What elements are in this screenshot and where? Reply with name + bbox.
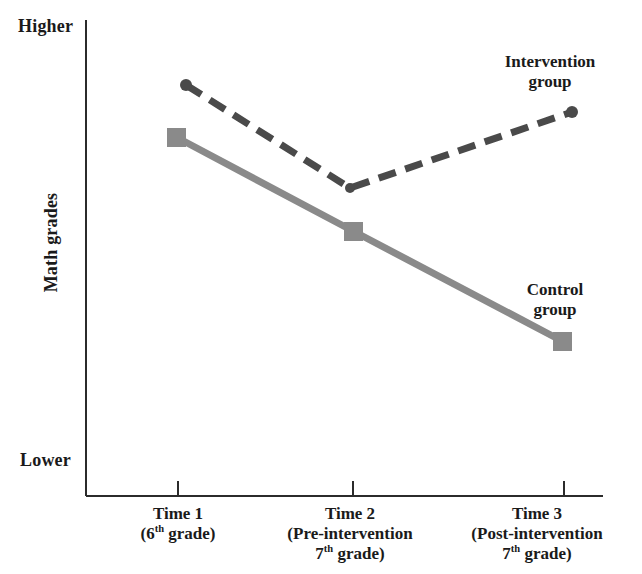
intervention-label-line-2: group	[470, 72, 630, 92]
y-axis-top-label: Higher	[18, 16, 73, 37]
tick-3-line-3: 7th grade)	[437, 544, 637, 564]
control-group-marker-time-3	[553, 332, 572, 351]
tick-1-line-2: (6th grade)	[78, 524, 278, 544]
tick-3-line-1: Time 3	[437, 504, 637, 524]
y-axis-bottom-label: Lower	[20, 450, 71, 471]
control-group-marker-time-1	[167, 128, 186, 147]
tick-2-line-3-post: grade)	[333, 544, 384, 563]
intervention-group-marker-time-3	[566, 106, 578, 118]
intervention-label-line-1: Intervention	[470, 52, 630, 72]
tick-3-line-3-pre: 7	[502, 544, 511, 563]
math-grades-line-chart: Higher Lower Math grades Time 1 (6th gra…	[0, 0, 642, 574]
tick-2-line-3: 7th grade)	[250, 544, 450, 564]
tick-1-line-2-pre: (6	[140, 524, 154, 543]
intervention-group-label: Intervention group	[470, 52, 630, 93]
tick-1-line-2-post: grade)	[164, 524, 215, 543]
tick-3-ordinal-suffix: th	[511, 543, 520, 554]
control-label-line-2: group	[490, 300, 620, 320]
tick-2-line-1: Time 2	[250, 504, 450, 524]
control-label-line-1: Control	[490, 280, 620, 300]
control-group-label: Control group	[490, 280, 620, 321]
tick-2-ordinal-suffix: th	[324, 543, 333, 554]
intervention-group-marker-time-1	[180, 79, 192, 91]
intervention-group-marker-time-2	[345, 183, 355, 193]
tick-2-line-2: (Pre-intervention	[250, 524, 450, 544]
tick-2-line-3-pre: 7	[315, 544, 324, 563]
x-axis-tick-label-time-1: Time 1 (6th grade)	[78, 504, 278, 544]
y-axis-title: Math grades	[41, 188, 62, 298]
tick-1-line-1: Time 1	[78, 504, 278, 524]
x-axis-tick-label-time-2: Time 2 (Pre-intervention 7th grade)	[250, 504, 450, 564]
tick-3-line-3-post: grade)	[520, 544, 571, 563]
control-group-marker-time-2	[344, 222, 363, 241]
tick-1-ordinal-suffix: th	[155, 523, 164, 534]
x-axis-tick-label-time-3: Time 3 (Post-intervention 7th grade)	[437, 504, 637, 564]
tick-3-line-2: (Post-intervention	[437, 524, 637, 544]
